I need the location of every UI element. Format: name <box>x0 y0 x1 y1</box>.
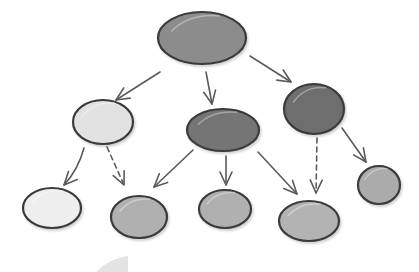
node-root <box>158 12 246 64</box>
edge-l1-left-to-l2-2 <box>107 147 124 185</box>
edge-l1-right-to-l2-4 <box>310 138 322 193</box>
node-l1-middle <box>187 109 259 151</box>
edge-l1-left-to-l2-1 <box>64 148 84 185</box>
edge-line <box>342 128 366 162</box>
nodes-layer <box>23 12 400 241</box>
edge-root-to-l1-middle <box>204 72 216 104</box>
node-l2-3 <box>199 190 251 228</box>
edge-line <box>116 72 160 100</box>
edge-line <box>316 138 317 193</box>
edge-l1-middle-to-l2-4 <box>258 152 297 194</box>
edge-l1-middle-to-l2-3 <box>220 156 232 185</box>
node-l2-1 <box>23 188 81 228</box>
node-l1-right <box>284 84 344 134</box>
edge-l1-middle-to-l2-2 <box>154 150 193 187</box>
edge-root-to-l1-left <box>116 72 160 100</box>
edge-line <box>64 148 84 185</box>
edge-line <box>250 56 291 82</box>
tree-diagram <box>0 0 419 272</box>
edge-l1-right-to-l2-5 <box>342 128 366 162</box>
node-l2-5 <box>358 166 400 204</box>
node-l2-2 <box>111 196 167 238</box>
node-l1-left <box>73 100 133 144</box>
node-l2-4 <box>279 201 339 241</box>
edge-root-to-l1-right <box>250 56 291 82</box>
edge-line <box>107 147 124 185</box>
partial-shape-bottom <box>96 256 128 272</box>
edge-line <box>154 150 193 187</box>
edge-line <box>258 152 297 194</box>
